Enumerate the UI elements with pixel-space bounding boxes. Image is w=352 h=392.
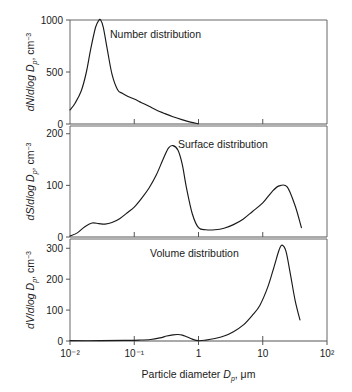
panel-annotation-surface: Surface distribution xyxy=(178,138,268,150)
particle-size-distribution-figure: 05001000dN/dlog Dp, cm−3Number distribut… xyxy=(0,0,352,392)
panel-annotation-number: Number distribution xyxy=(110,28,201,40)
panel-annotation-volume: Volume distribution xyxy=(150,247,239,259)
x-tick-label: 10⁻² xyxy=(60,348,80,359)
y-tick-label: 1000 xyxy=(41,15,64,26)
x-axis: 10⁻²10⁻¹11010²Particle diameter Dp, μm xyxy=(60,341,335,383)
x-tick-label: 10² xyxy=(320,348,335,359)
y-tick-label: 100 xyxy=(46,180,63,191)
y-axis-label-surface: dS/dlog Dp, cm−3 xyxy=(24,142,39,220)
y-tick-label: 300 xyxy=(46,243,63,254)
y-tick-label: 100 xyxy=(46,305,63,316)
y-tick-label: 200 xyxy=(46,128,63,139)
y-axis-label-volume: dV/dlog Dp, cm−3 xyxy=(24,251,39,329)
y-tick-label: 0 xyxy=(57,232,63,243)
x-tick-label: 10⁻¹ xyxy=(125,348,145,359)
distribution-curve-surface xyxy=(70,146,301,236)
panel-surface: 0100200dS/dlog Dp, cm−3Surface distribut… xyxy=(24,126,327,243)
x-tick-label: 10 xyxy=(257,348,269,359)
y-tick-label: 200 xyxy=(46,274,63,285)
y-tick-label: 500 xyxy=(46,67,63,78)
panel-number: 05001000dN/dlog Dp, cm−3Number distribut… xyxy=(24,15,327,130)
y-axis-label-number: dN/dlog Dp, cm−3 xyxy=(24,33,39,112)
x-tick-label: 1 xyxy=(196,348,202,359)
figure-svg: 05001000dN/dlog Dp, cm−3Number distribut… xyxy=(0,0,352,392)
panel-volume: 0100200300dV/dlog Dp, cm−3Volume distrib… xyxy=(24,239,327,347)
x-axis-label: Particle diameter Dp, μm xyxy=(142,368,256,383)
y-tick-label: 0 xyxy=(57,336,63,347)
distribution-curve-volume xyxy=(70,245,300,341)
